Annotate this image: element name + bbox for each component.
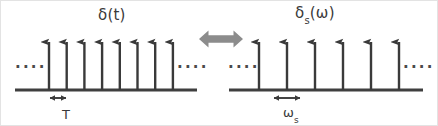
right-period-label: ωs: [283, 105, 299, 123]
left-ellipsis-start: ....: [15, 56, 47, 71]
right-function-label: δs(ω): [295, 4, 335, 24]
left-spikes: [49, 42, 173, 90]
right-ellipsis-end: ....: [403, 56, 435, 71]
figure-canvas: δ(t) δs(ω) T ωs .... .... .... ....: [0, 0, 438, 126]
right-function-subscript: s: [304, 15, 309, 26]
left-ellipsis-end: ....: [177, 56, 209, 71]
right-period-subscript: s: [294, 115, 299, 125]
left-period-label: T: [62, 107, 70, 122]
right-spikes: [259, 42, 399, 90]
left-function-label: δ(t): [98, 6, 126, 24]
right-period-symbol: ω: [283, 105, 294, 120]
right-function-argument: (ω): [310, 4, 335, 22]
right-function-symbol: δ: [295, 4, 304, 22]
transform-equivalence-arrow: [199, 31, 243, 48]
right-ellipsis-start: ....: [228, 56, 260, 71]
